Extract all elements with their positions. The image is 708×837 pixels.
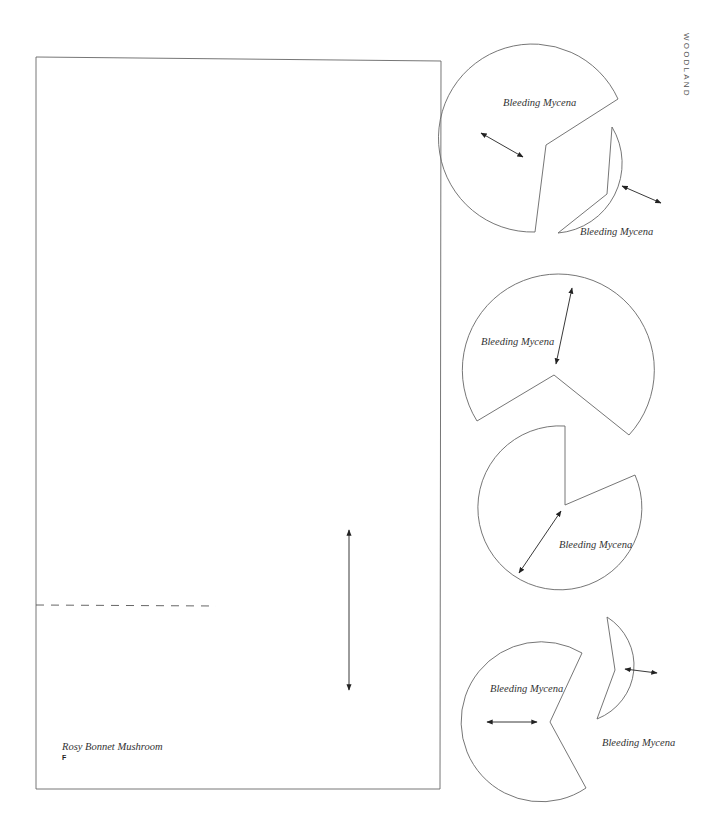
piece-label: Bleeding Mycena [503, 97, 576, 108]
grainline-arrow-icon [622, 186, 661, 203]
grainline-arrow-icon [481, 133, 523, 157]
mycena-piece-3[interactable]: Bleeding Mycena [462, 274, 654, 435]
piece-label: Bleeding Mycena [602, 737, 675, 748]
rectangle-outline [36, 57, 441, 789]
piece-label: Bleeding Mycena [490, 683, 563, 694]
piece-name: Rosy Bonnet Mushroom [61, 741, 163, 752]
mycena-piece-6[interactable]: Bleeding Mycena [597, 617, 675, 748]
grainline-arrow-icon [519, 511, 561, 573]
piece-letter: F [62, 754, 67, 761]
pattern-sheet: Rosy Bonnet Mushroom F Bleeding Mycena B… [0, 0, 708, 837]
piece-outline [597, 617, 634, 719]
mycena-piece-1[interactable]: Bleeding Mycena [438, 44, 618, 232]
grainline-arrow-icon [625, 669, 657, 673]
piece-label: Bleeding Mycena [481, 336, 554, 347]
piece-outline [558, 127, 622, 233]
mycena-piece-4[interactable]: Bleeding Mycena [478, 426, 642, 590]
piece-outline [438, 44, 618, 232]
rosy-bonnet-piece[interactable]: Rosy Bonnet Mushroom F [36, 57, 441, 789]
mycena-piece-2[interactable]: Bleeding Mycena [558, 127, 661, 237]
piece-label: Bleeding Mycena [580, 226, 653, 237]
piece-outline [478, 426, 642, 590]
fold-line-dashed [36, 605, 216, 606]
piece-label: Bleeding Mycena [559, 539, 632, 550]
grainline-arrow-icon [556, 288, 572, 364]
mycena-piece-5[interactable]: Bleeding Mycena [461, 642, 586, 802]
